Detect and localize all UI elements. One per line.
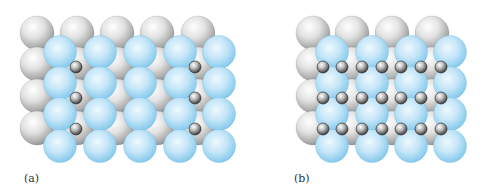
interstitial-atom xyxy=(356,61,368,73)
interstitial-atom xyxy=(189,123,201,135)
interstitial-atom xyxy=(415,61,427,73)
interstitial-atom xyxy=(189,92,201,104)
panel-b-lattice xyxy=(296,16,467,163)
interstitial-atom xyxy=(435,61,447,73)
interstitial-atom xyxy=(415,92,427,104)
host-atom-blue xyxy=(84,130,117,163)
interstitial-atom xyxy=(435,92,447,104)
interstitial-atom xyxy=(189,61,201,73)
host-atom-blue xyxy=(124,36,157,69)
host-atom-blue xyxy=(203,98,236,131)
host-atom-blue xyxy=(124,130,157,163)
host-atom-blue xyxy=(124,98,157,131)
interstitial-atom xyxy=(336,92,348,104)
interstitial-atom xyxy=(376,92,388,104)
interstitial-atom xyxy=(356,92,368,104)
interstitial-atom xyxy=(336,61,348,73)
host-atom-blue xyxy=(203,130,236,163)
host-atom-blue xyxy=(164,130,197,163)
host-atom-blue xyxy=(84,98,117,131)
interstitial-atom xyxy=(317,61,329,73)
interstitial-atom xyxy=(317,92,329,104)
host-atom-blue xyxy=(203,36,236,69)
host-atom-blue xyxy=(84,36,117,69)
host-atom-blue xyxy=(124,67,157,100)
interstitial-atom xyxy=(376,61,388,73)
interstitial-atom xyxy=(415,123,427,135)
panel-b-label: (b) xyxy=(294,172,310,185)
interstitial-atom xyxy=(395,92,407,104)
host-atom-blue xyxy=(203,67,236,100)
interstitial-atom xyxy=(395,61,407,73)
interstitial-atom xyxy=(435,123,447,135)
interstitial-atom xyxy=(317,123,329,135)
interstitial-atom xyxy=(70,61,82,73)
panel-a-label: (a) xyxy=(24,172,39,185)
host-atom-blue xyxy=(44,130,77,163)
crystal-lattice-diagram xyxy=(0,0,491,194)
interstitial-atom xyxy=(336,123,348,135)
interstitial-atom xyxy=(356,123,368,135)
host-atom-blue xyxy=(84,67,117,100)
interstitial-atom xyxy=(70,123,82,135)
interstitial-atom xyxy=(376,123,388,135)
interstitial-atom xyxy=(395,123,407,135)
interstitial-atom xyxy=(70,92,82,104)
panel-a-lattice xyxy=(20,16,236,163)
